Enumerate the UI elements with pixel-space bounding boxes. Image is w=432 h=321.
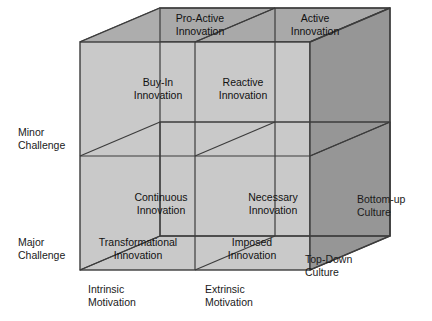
axis-label-minor-challenge: Minor Challenge [18,126,80,151]
axis-label-line2: Culture [305,266,381,279]
cell-label-line1: Transformational [82,236,194,249]
cell-continuous-innovation: Continuous Innovation [120,191,202,216]
axis-label-line2: Motivation [88,296,174,309]
cell-necessary-innovation: Necessary Innovation [232,191,314,216]
cell-reactive-innovation: Reactive Innovation [205,76,281,101]
diagram-canvas: Pro-Active Innovation Active Innovation … [0,0,432,321]
axis-label-line2: Challenge [18,139,80,152]
axis-label-top-down-culture: Top-Down Culture [305,253,381,278]
axis-label-extrinsic-motivation: Extrinsic Motivation [205,283,291,308]
cell-transformational-innovation: Transformational Innovation [82,236,194,261]
cell-label-line2: Innovation [122,89,194,102]
axis-label-line1: Extrinsic [205,283,291,296]
cell-label-line2: Innovation [205,89,281,102]
axis-label-line1: Minor [18,126,80,139]
axis-label-line1: Intrinsic [88,283,174,296]
cell-label-line1: Active [280,12,350,25]
axis-label-line2: Motivation [205,296,291,309]
cell-buy-in-innovation: Buy-In Innovation [122,76,194,101]
cell-label-line2: Innovation [120,204,202,217]
cell-label-line1: Imposed [198,236,306,249]
cell-imposed-innovation: Imposed Innovation [198,236,306,261]
axis-label-line2: Culture [357,206,432,219]
axis-label-line2: Challenge [18,249,80,262]
cell-label-line2: Innovation [232,204,314,217]
cell-label-line2: Innovation [198,249,306,262]
cell-label-line2: Innovation [280,25,350,38]
cell-label-line2: Innovation [165,25,235,38]
cell-label-line1: Reactive [205,76,281,89]
cell-label-line1: Continuous [120,191,202,204]
cell-label-line1: Necessary [232,191,314,204]
axis-label-major-challenge: Major Challenge [18,236,80,261]
axis-label-intrinsic-motivation: Intrinsic Motivation [88,283,174,308]
cell-active-innovation: Active Innovation [280,12,350,37]
cell-label-line1: Buy-In [122,76,194,89]
axis-label-line1: Top-Down [305,253,381,266]
axis-label-line1: Major [18,236,80,249]
cell-label-line2: Innovation [82,249,194,262]
axis-label-bottom-up-culture: Bottom-up Culture [357,193,432,218]
axis-label-line1: Bottom-up [357,193,432,206]
cell-label-line1: Pro-Active [165,12,235,25]
cell-pro-active-innovation: Pro-Active Innovation [165,12,235,37]
